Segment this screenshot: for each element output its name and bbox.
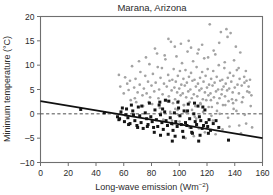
data-point [217,126,220,129]
data-point [194,120,197,123]
data-point [233,86,236,89]
data-point [152,126,155,129]
data-point [163,82,166,85]
data-point [228,125,231,128]
data-point [187,39,190,42]
data-point [208,83,211,86]
data-point [227,116,230,119]
data-point [230,80,233,83]
data-point [232,102,235,105]
data-point [207,56,210,59]
data-point [179,94,182,97]
data-point [163,110,166,113]
data-point [207,94,210,97]
x-tick-label: 20 [64,168,74,178]
data-point [153,131,156,134]
data-point [202,124,205,127]
data-point [211,84,214,87]
data-point [193,102,196,105]
data-point [141,94,144,97]
data-point [210,114,213,117]
y-axis-label: Minimum temperature (°C) [2,36,12,142]
data-point [243,76,246,79]
data-point [172,68,175,71]
x-tick-label: 40 [91,168,101,178]
data-point [161,67,164,70]
data-point [232,75,235,78]
data-point [154,81,157,84]
data-point [245,79,248,82]
data-point [182,77,185,80]
data-point [201,43,204,46]
data-point [182,136,185,139]
data-point [207,106,210,109]
data-point [158,88,161,91]
data-point [250,94,253,97]
data-point [171,119,174,122]
data-point [129,79,132,82]
data-point [171,78,174,81]
data-point [225,28,228,31]
data-point [143,87,146,90]
data-point [125,107,128,110]
data-point [204,131,207,134]
data-point [171,140,174,143]
data-point [216,102,219,105]
data-point [173,45,176,48]
data-point [217,88,220,91]
data-point [207,132,210,135]
data-point [119,110,122,113]
data-point [159,134,162,137]
data-point [188,117,191,120]
x-tick-label: 60 [119,168,129,178]
data-point [156,125,159,128]
data-point [131,109,134,112]
data-point [152,73,155,76]
data-point [176,125,179,128]
data-point [174,98,177,101]
data-point [175,55,178,58]
data-point [177,75,180,78]
data-point [165,85,168,88]
data-point [236,83,239,86]
data-point [153,90,156,93]
data-point [201,98,204,101]
data-point [190,97,193,100]
figure-container: Marana, Arizona –10–505101520 0204060801… [0,0,273,195]
data-point [245,122,248,125]
data-point [208,23,211,26]
data-point [168,79,171,82]
data-point [228,87,231,90]
data-point [206,125,209,128]
data-point [158,107,161,110]
data-point [127,89,130,92]
data-point [161,93,164,96]
data-point [164,58,167,61]
x-tick-label: 100 [172,168,186,178]
data-point [233,59,236,62]
data-point [243,113,246,116]
data-point [235,110,238,113]
data-point [167,38,170,41]
data-point [222,104,225,107]
data-point [183,109,186,112]
data-point [231,91,234,94]
data-point [247,85,250,88]
data-point [241,101,244,104]
data-point [130,104,133,107]
data-point [184,121,187,124]
data-point [186,81,189,84]
data-point [156,66,159,69]
data-point [180,83,183,86]
data-point [224,95,227,98]
data-point [196,105,199,108]
data-point [203,108,206,111]
data-point [210,77,213,80]
data-point [129,99,132,102]
data-point [124,76,127,79]
data-point [199,76,202,79]
data-point [209,92,212,95]
data-point [158,104,161,107]
data-point [137,106,140,109]
data-point [195,85,198,88]
